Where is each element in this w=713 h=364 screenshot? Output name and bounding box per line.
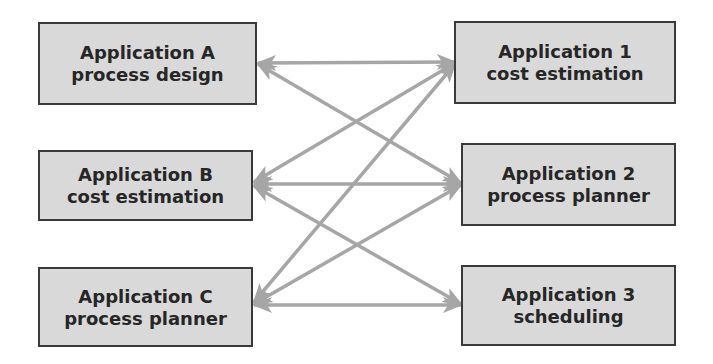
node-subtitle: cost estimation bbox=[486, 62, 643, 85]
node-subtitle: process planner bbox=[64, 307, 227, 330]
node-application-2: Application 2 process planner bbox=[461, 143, 676, 226]
node-application-3: Application 3 scheduling bbox=[461, 265, 676, 346]
node-application-c: Application C process planner bbox=[38, 267, 253, 347]
node-title: Application B bbox=[78, 163, 213, 186]
node-title: Application A bbox=[80, 41, 215, 64]
node-subtitle: process planner bbox=[487, 184, 650, 207]
node-title: Application C bbox=[78, 285, 212, 308]
node-title: Application 2 bbox=[502, 162, 636, 185]
arrow-a-1 bbox=[258, 62, 455, 63]
node-application-a: Application A process design bbox=[38, 22, 257, 105]
integration-diagram: Application A process design Application… bbox=[0, 0, 713, 364]
node-application-1: Application 1 cost estimation bbox=[454, 21, 676, 104]
node-subtitle: cost estimation bbox=[67, 185, 224, 208]
node-subtitle: process design bbox=[71, 63, 223, 86]
arrow-a-2 bbox=[258, 64, 461, 183]
node-subtitle: scheduling bbox=[513, 305, 623, 328]
node-application-b: Application B cost estimation bbox=[38, 150, 253, 221]
node-title: Application 3 bbox=[502, 283, 636, 306]
node-title: Application 1 bbox=[498, 40, 632, 63]
